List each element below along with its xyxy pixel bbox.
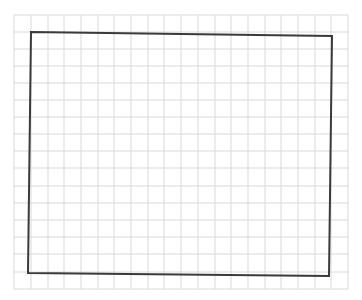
grid-paper-drawing bbox=[0, 0, 362, 300]
grid-lines bbox=[14, 15, 348, 289]
drawn-rectangle bbox=[28, 32, 332, 276]
